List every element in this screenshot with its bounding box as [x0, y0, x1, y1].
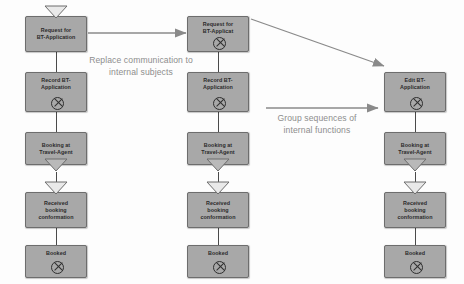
- connector-l4-l5: [56, 228, 57, 245]
- receive-triangle-l4: [44, 181, 68, 195]
- send-triangle-r2: [403, 158, 427, 172]
- node-label: Record BT- Application: [26, 77, 86, 91]
- end-state-icon: [213, 261, 226, 274]
- node-label: Booked: [385, 250, 445, 257]
- node-record-bt-application-middle[interactable]: Record BT- Application: [187, 72, 249, 112]
- node-label: Booked: [26, 250, 86, 257]
- node-request-for-bt-application-middle[interactable]: Request for BT-Applicat: [187, 16, 249, 52]
- node-label: Booking at Travel-Agent: [188, 142, 248, 156]
- node-label: Edit BT- Application: [385, 77, 445, 91]
- node-record-bt-application-left[interactable]: Record BT- Application: [25, 72, 87, 112]
- connector-m4-m5: [218, 228, 219, 245]
- node-booked-right[interactable]: Booked: [384, 245, 446, 278]
- node-received-booking-conformation-right[interactable]: Received booking conformation: [384, 192, 446, 228]
- node-label: Received booking conformation: [26, 200, 86, 221]
- send-triangle-m3: [206, 158, 230, 172]
- connector-l1-l2: [56, 52, 57, 72]
- node-label: Received booking conformation: [188, 200, 248, 221]
- receive-triangle-m4: [206, 181, 230, 195]
- connector-m1-m2: [218, 52, 219, 72]
- end-state-icon: [213, 37, 226, 50]
- node-booked-middle[interactable]: Booked: [187, 245, 249, 278]
- arrow-middle-to-right-top: [251, 19, 384, 66]
- receive-triangle-l1: [44, 5, 68, 19]
- node-booked-left[interactable]: Booked: [25, 245, 87, 278]
- annotation-replace-communication: Replace communication to internal subjec…: [70, 55, 212, 78]
- connector-r1-r2: [415, 112, 416, 132]
- node-label: Received booking conformation: [385, 200, 445, 221]
- node-request-for-bt-application-left[interactable]: Request for BT-Application: [25, 16, 87, 52]
- node-label: Booking at Travel-Agent: [26, 142, 86, 156]
- connector-m2-m3: [218, 112, 219, 132]
- diagram-canvas: Request for BT-Application Record BT- Ap…: [0, 0, 464, 284]
- node-label: Booking at Travel-Agent: [385, 142, 445, 156]
- end-state-icon: [410, 97, 423, 110]
- connector-l2-l3: [56, 112, 57, 132]
- end-state-icon: [51, 261, 64, 274]
- node-label: Request for BT-Application: [26, 27, 86, 41]
- connector-r3-r4: [415, 228, 416, 245]
- node-label: Record BT- Application: [188, 77, 248, 91]
- end-state-icon: [410, 261, 423, 274]
- end-state-icon: [213, 97, 226, 110]
- end-state-icon: [51, 97, 64, 110]
- annotation-group-sequences: Group sequences of internal functions: [256, 113, 378, 136]
- node-label: Booked: [188, 250, 248, 257]
- receive-triangle-r3: [403, 181, 427, 195]
- node-edit-bt-application-right[interactable]: Edit BT- Application: [384, 72, 446, 112]
- send-triangle-l3: [44, 158, 68, 172]
- node-received-booking-conformation-middle[interactable]: Received booking conformation: [187, 192, 249, 228]
- node-label: Request for BT-Applicat: [188, 21, 248, 35]
- node-received-booking-conformation-left[interactable]: Received booking conformation: [25, 192, 87, 228]
